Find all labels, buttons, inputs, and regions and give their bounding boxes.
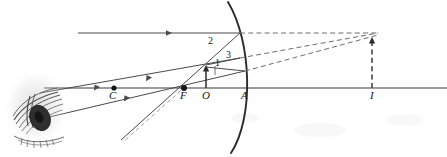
diagram-canvas (0, 0, 447, 157)
paper-texture (231, 113, 423, 137)
eye (2, 68, 70, 148)
ray-parallel-incident-direction-tick (166, 30, 172, 36)
label-focal-point: F (180, 90, 187, 101)
label-image-point: I (370, 90, 374, 101)
label-ray-2: 2 (208, 36, 213, 46)
optics-ray-diagram: C F O A I 1 2 3 (0, 0, 447, 157)
ray-toward-center-reflected (45, 71, 245, 118)
label-mirror-vertex: A (241, 90, 248, 101)
ray-toward-center-incident (206, 67, 245, 71)
ray-toward-center-direction-tick (124, 95, 130, 101)
ray-toward-focus-virtual-extension (240, 33, 378, 58)
label-center-of-curvature: C (109, 90, 116, 101)
ray-toward-focus-direction-tick (146, 75, 152, 81)
construction-line-through-focus (123, 86, 186, 142)
label-ray-3: 3 (226, 50, 231, 60)
ray-toward-focus-direction-tick-2 (94, 84, 100, 90)
label-object-point: O (202, 90, 210, 101)
convex-mirror-arc (228, 2, 247, 153)
label-ray-1: 1 (215, 58, 220, 68)
